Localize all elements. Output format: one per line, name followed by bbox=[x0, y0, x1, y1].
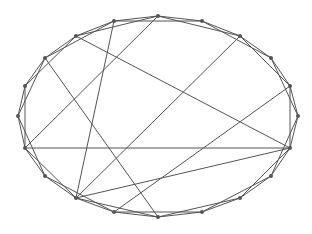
node bbox=[112, 210, 116, 214]
edge bbox=[25, 148, 76, 198]
edge bbox=[114, 16, 158, 21]
edge bbox=[240, 36, 290, 86]
edge bbox=[45, 176, 76, 198]
edge bbox=[25, 16, 158, 148]
edge bbox=[45, 58, 158, 217]
node bbox=[156, 14, 160, 18]
node bbox=[200, 210, 204, 214]
edge bbox=[76, 16, 158, 36]
edge bbox=[25, 36, 76, 86]
edge bbox=[271, 116, 298, 176]
edge bbox=[158, 16, 240, 36]
edge bbox=[271, 58, 290, 86]
edge bbox=[18, 116, 45, 176]
node bbox=[156, 215, 160, 219]
node bbox=[43, 56, 47, 60]
edge bbox=[45, 36, 76, 58]
node bbox=[269, 56, 273, 60]
node bbox=[16, 114, 20, 118]
node bbox=[288, 84, 292, 88]
graph-diagram bbox=[0, 0, 312, 234]
edge bbox=[25, 58, 45, 86]
edge bbox=[240, 148, 290, 198]
edge bbox=[114, 212, 158, 217]
edge bbox=[76, 198, 158, 217]
edge bbox=[158, 198, 240, 217]
node bbox=[23, 84, 27, 88]
edge bbox=[18, 58, 45, 116]
edge bbox=[240, 176, 271, 198]
edges bbox=[18, 16, 298, 217]
node bbox=[288, 146, 292, 150]
edge bbox=[202, 176, 271, 212]
node bbox=[112, 19, 116, 23]
edge bbox=[158, 212, 202, 217]
node bbox=[238, 196, 242, 200]
edge bbox=[76, 36, 240, 198]
node bbox=[238, 34, 242, 38]
node bbox=[269, 174, 273, 178]
edge bbox=[114, 86, 290, 212]
node bbox=[296, 114, 300, 118]
node bbox=[200, 19, 204, 23]
node bbox=[74, 196, 78, 200]
node bbox=[74, 34, 78, 38]
edge bbox=[240, 36, 271, 58]
node bbox=[43, 174, 47, 178]
edge bbox=[18, 116, 25, 148]
edge bbox=[45, 21, 114, 58]
edge bbox=[25, 148, 45, 176]
edge bbox=[271, 58, 298, 116]
edge bbox=[18, 86, 25, 116]
edge bbox=[158, 16, 202, 21]
node bbox=[23, 146, 27, 150]
edge bbox=[76, 148, 290, 198]
